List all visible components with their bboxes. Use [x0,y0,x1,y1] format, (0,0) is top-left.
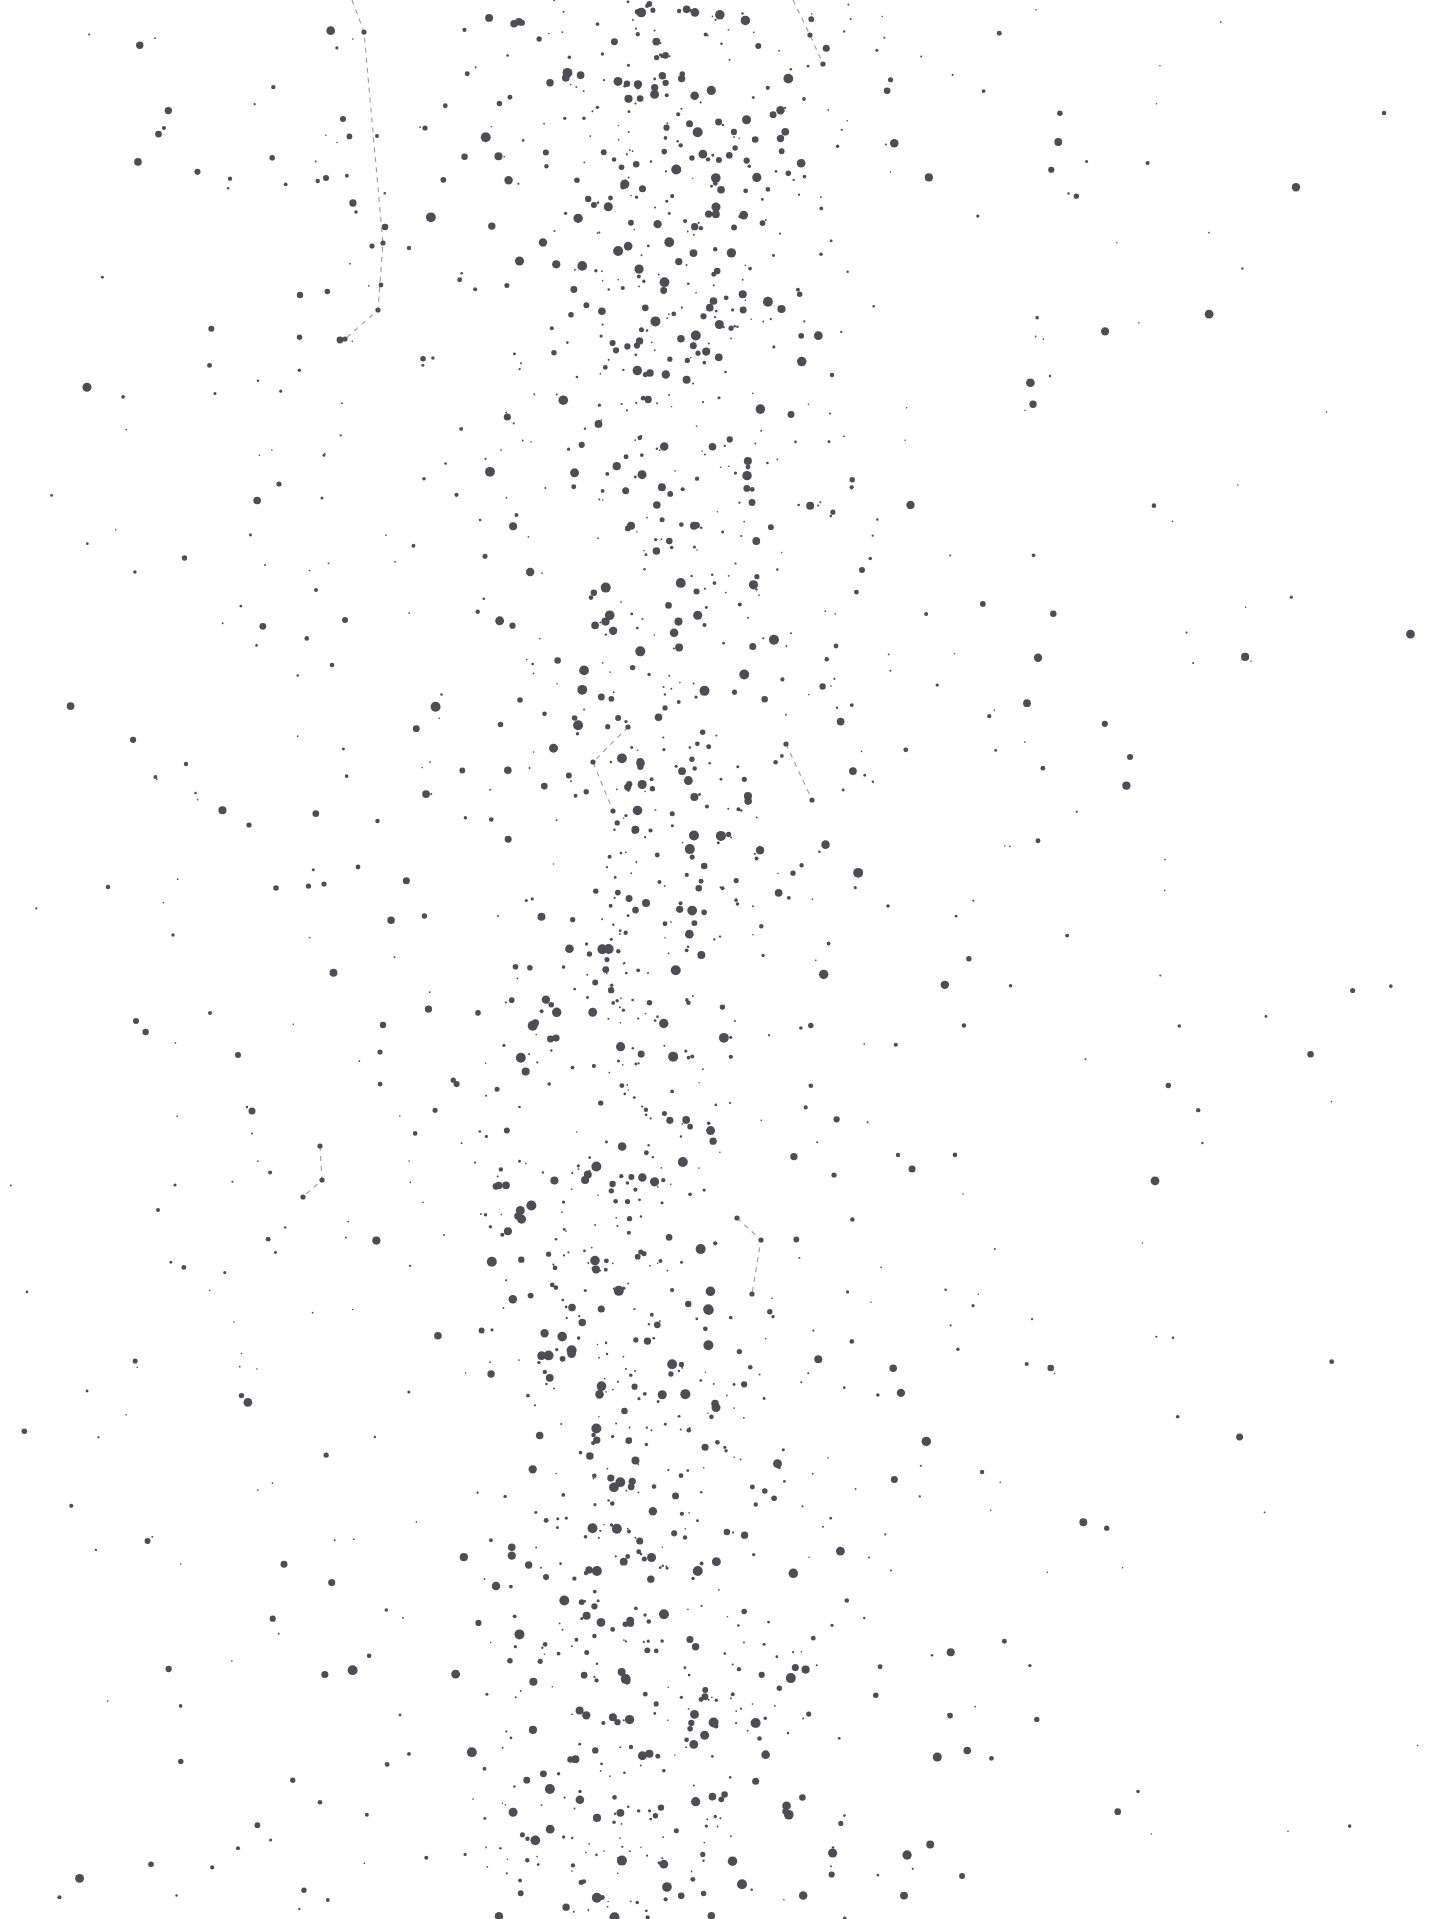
star-chart [0,0,1440,1919]
star-field-canvas [0,0,1440,1919]
